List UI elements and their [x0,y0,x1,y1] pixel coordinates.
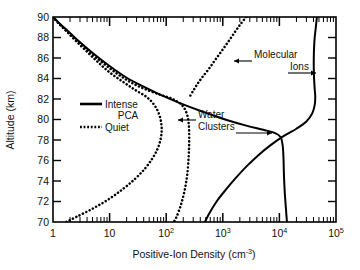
y-tick-label: 70 [37,216,49,228]
legend-label-intense-pca-line2: PCA [118,110,139,121]
y-tick-label: 78 [37,134,49,146]
y-tick-label: 90 [37,11,49,23]
x-tick-label: 1 [50,227,56,239]
y-axis-title: Altitude (km) [4,91,16,150]
y-tick-label: 84 [37,72,49,84]
annotation-water-clusters-line2: Clusters [198,121,235,132]
y-tick-label: 76 [37,154,49,166]
y-tick-label: 80 [37,113,49,125]
x-tick-label: 10 [104,227,116,239]
y-tick-label: 86 [37,52,49,64]
annotation-molecular-ions-line2: Ions [290,61,309,72]
y-tick-label: 74 [37,175,49,187]
y-tick-label: 72 [37,195,49,207]
annotation-water-clusters-line1: Water [198,109,225,120]
x-axis-title: Positive-Ion Density (cm-3) [132,247,255,260]
y-tick-label: 88 [37,31,49,43]
positive-ion-density-altitude-chart: 110102103104105 7072747678808284868890 P… [0,0,360,270]
legend-label-quiet: Quiet [105,122,129,133]
annotation-molecular-ions-line1: Molecular [254,49,298,60]
legend-label-intense-pca-line1: Intense [105,99,138,110]
y-tick-label: 82 [37,93,49,105]
chart-figure: 110102103104105 7072747678808284868890 P… [0,0,360,270]
